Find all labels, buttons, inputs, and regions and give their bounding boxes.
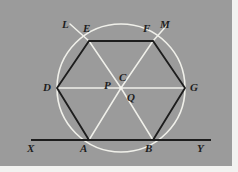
point-label-Q: Q bbox=[127, 92, 135, 103]
radii-group bbox=[57, 41, 185, 140]
center-point-marker bbox=[119, 86, 122, 89]
point-label-X: X bbox=[27, 143, 34, 154]
radius-to-A bbox=[89, 88, 121, 140]
geometry-figure: L E F M D C P Q G X A B Y bbox=[0, 0, 238, 172]
hexagon-outline bbox=[57, 41, 185, 140]
point-label-D: D bbox=[43, 82, 51, 93]
point-label-P: P bbox=[104, 80, 111, 91]
point-label-F: F bbox=[143, 23, 150, 34]
point-label-A: A bbox=[80, 143, 87, 154]
point-label-E: E bbox=[83, 23, 90, 34]
point-label-C: C bbox=[119, 72, 126, 83]
point-label-M: M bbox=[160, 19, 170, 30]
point-label-Y: Y bbox=[197, 143, 204, 154]
point-label-B: B bbox=[145, 143, 152, 154]
point-label-G: G bbox=[190, 82, 198, 93]
point-label-L: L bbox=[62, 19, 69, 30]
radius-to-B bbox=[121, 88, 153, 140]
